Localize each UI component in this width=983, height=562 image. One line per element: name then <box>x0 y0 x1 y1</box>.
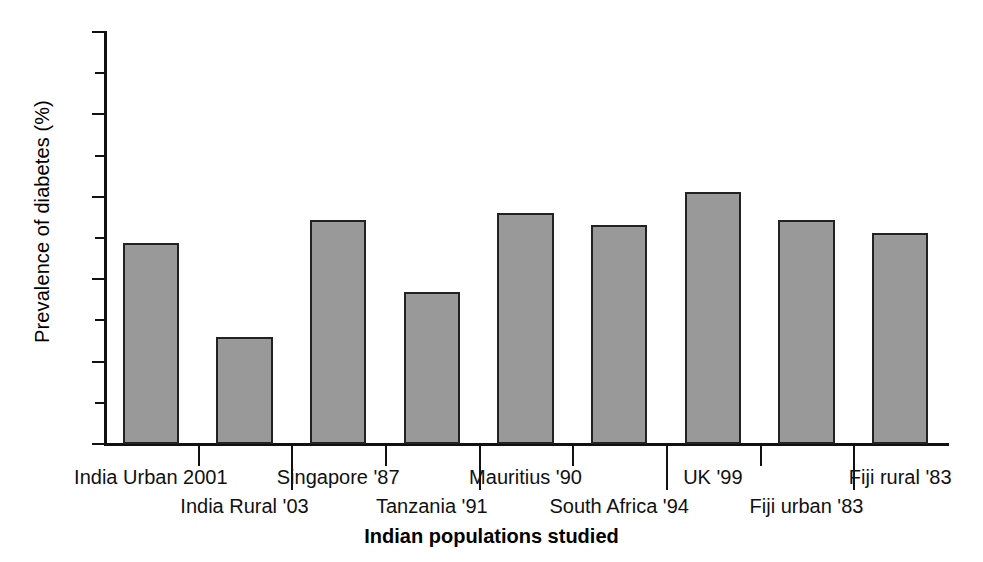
y-tick-minor <box>95 72 104 74</box>
y-tick-major <box>92 31 104 33</box>
bar <box>778 220 834 444</box>
bar <box>123 243 179 444</box>
bars-container <box>104 32 947 444</box>
x-axis-category-label: Fiji rural '83 <box>849 466 952 488</box>
y-axis-title: Prevalence of diabetes (%) <box>31 72 54 372</box>
bar <box>591 225 647 444</box>
bar <box>404 292 460 444</box>
y-tick-major <box>92 361 104 363</box>
x-tick <box>760 446 762 466</box>
x-axis-title: Indian populations studied <box>0 525 983 548</box>
bar <box>310 220 366 444</box>
y-tick-minor <box>95 237 104 239</box>
x-tick <box>385 446 387 466</box>
x-axis-category-label: India Urban 2001 <box>74 466 227 488</box>
x-axis-category-label: Mauritius '90 <box>469 466 582 488</box>
bar-chart: Prevalence of diabetes (%) 0510152025 In… <box>0 0 983 562</box>
bar <box>872 233 928 444</box>
x-axis-category-label: India Rural '03 <box>180 495 308 517</box>
y-tick-major <box>92 278 104 280</box>
x-axis-category-label: Tanzania '91 <box>376 495 488 517</box>
x-tick <box>572 446 574 466</box>
x-axis-category-label: UK '99 <box>683 466 742 488</box>
bar <box>685 192 741 444</box>
bar <box>497 213 553 444</box>
y-tick-minor <box>95 319 104 321</box>
bar <box>216 337 272 444</box>
y-tick-major <box>92 443 104 445</box>
y-tick-minor <box>95 155 104 157</box>
x-axis-category-label: Singapore '87 <box>277 466 400 488</box>
y-tick-major <box>92 113 104 115</box>
y-tick-minor <box>95 402 104 404</box>
x-axis-category-label: South Africa '94 <box>549 495 688 517</box>
x-tick <box>198 446 200 466</box>
y-tick-major <box>92 196 104 198</box>
x-axis-category-label: Fiji urban '83 <box>750 495 864 517</box>
x-tick <box>666 446 668 490</box>
